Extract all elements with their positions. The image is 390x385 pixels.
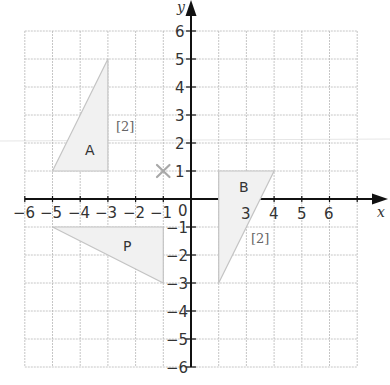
y-tick-label: −3 [166,275,188,293]
y-tick-label: 6 [175,23,185,41]
x-tick-label: 4 [269,205,279,223]
y-tick-label: 4 [175,79,185,97]
y-tick-label: 1 [175,163,185,181]
origin-label: 0 [178,202,188,220]
shape-label-B: B [239,179,249,195]
y-tick-label: −6 [166,359,188,377]
y-axis-name: y [176,0,186,15]
y-tick-label: −2 [166,247,188,265]
shape-label-A: A [85,142,95,158]
y-tick-label: −1 [166,219,188,237]
x-axis-arrow-icon [372,194,388,205]
coordinate-grid-diagram: y x 0 −6 −5 −4 −3 −2 −1 3 4 5 6 6 5 4 3 … [0,0,390,385]
scan-artifact-line [0,139,390,141]
x-tick-label: 3 [241,205,251,223]
x-tick-label: −2 [123,204,145,222]
shape-label-P: P [123,238,131,254]
x-tick-label: −6 [13,204,35,222]
axes [25,0,388,367]
marks-label-A: [2] [116,119,134,134]
y-tick-label: 5 [175,51,185,69]
y-tick-label: 3 [175,107,185,125]
x-tick-label: −3 [95,204,117,222]
x-tick-label: −5 [40,204,62,222]
y-axis-arrow-icon [186,0,197,16]
x-tick-label: −4 [68,204,90,222]
y-tick-label: 2 [175,135,185,153]
marks-label-B: [2] [251,231,269,246]
y-tick-label: −4 [166,303,188,321]
x-tick-label: 6 [324,205,334,223]
x-axis-name: x [377,204,385,220]
y-tick-label: −5 [166,331,188,349]
x-tick-label: 5 [297,205,307,223]
